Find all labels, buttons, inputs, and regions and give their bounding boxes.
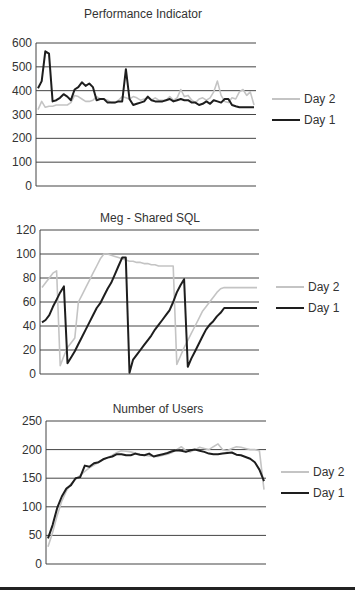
bottom-divider <box>0 587 355 590</box>
plot-area <box>0 0 355 597</box>
day2-line <box>48 444 264 547</box>
legend-label: Day 1 <box>313 486 344 500</box>
legend-label: Day 2 <box>313 465 344 479</box>
legend-item-day-1: Day 1 <box>281 486 344 500</box>
legend-item-day-2: Day 2 <box>281 465 344 479</box>
day1-line <box>48 450 264 539</box>
legend-swatch-icon <box>281 471 309 473</box>
legend-swatch-icon <box>281 492 309 494</box>
